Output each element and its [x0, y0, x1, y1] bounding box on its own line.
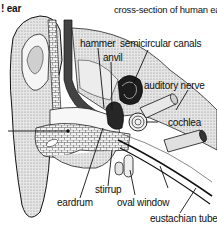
label-eardrum: eardrum — [57, 197, 93, 208]
ossicles-shape — [106, 102, 124, 130]
label-auditory-nerve: auditory nerve — [144, 80, 205, 91]
label-oval-window: oval window — [117, 197, 169, 208]
label-hammer: hammer — [80, 38, 115, 49]
label-semicircular-canals: semicircular canals — [120, 38, 201, 49]
label-cochlea: cochlea — [168, 117, 201, 128]
oval-window-shape — [124, 155, 133, 177]
leader-eustachian — [180, 188, 196, 213]
label-anvil: anvil — [103, 52, 123, 63]
label-eustachian-tube: eustachian tube — [150, 213, 217, 224]
corner-title: ! ear — [1, 3, 21, 14]
diagram-title: cross-section of human ear — [114, 4, 217, 15]
label-stirrup: stirrup — [95, 184, 121, 195]
semicircular-canals-shape — [118, 75, 143, 104]
